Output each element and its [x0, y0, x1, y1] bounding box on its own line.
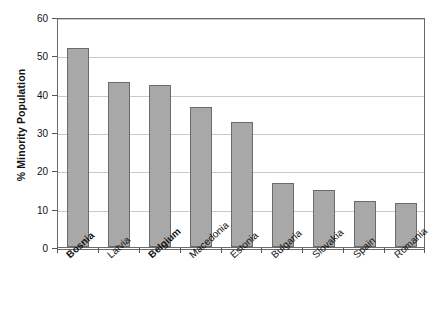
bar[interactable] — [231, 122, 253, 247]
y-tick-label: 30 — [26, 128, 48, 139]
x-axis-tick-labels: BosniaLatviaBelgiumMacedoniaEstoniaBulga… — [57, 252, 425, 311]
bar-chart: % Minority Population 0102030405060 Bosn… — [0, 0, 442, 311]
y-axis-tick-labels: 0102030405060 — [26, 0, 48, 311]
plot-area — [57, 18, 425, 248]
bar[interactable] — [190, 107, 212, 247]
bar[interactable] — [149, 85, 171, 247]
y-tick-label: 10 — [26, 204, 48, 215]
y-tick-label: 50 — [26, 51, 48, 62]
bar[interactable] — [67, 48, 89, 247]
y-tick-label: 0 — [26, 243, 48, 254]
y-tick-label: 60 — [26, 13, 48, 24]
y-tick-label: 40 — [26, 89, 48, 100]
bar[interactable] — [108, 82, 130, 247]
bars-container — [58, 19, 424, 247]
y-tick-label: 20 — [26, 166, 48, 177]
